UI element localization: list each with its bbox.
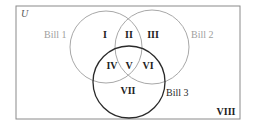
region-label-5: V xyxy=(125,60,133,71)
set-circle-bill-1 xyxy=(70,11,142,83)
set-circle-bill-2 xyxy=(115,10,189,84)
venn-diagram: U Bill 1 Bill 2 Bill 3 I II III IV V VI … xyxy=(0,0,253,127)
region-label-8: VIII xyxy=(217,106,236,117)
universe-label: U xyxy=(21,8,29,19)
set-label-bill-2: Bill 2 xyxy=(191,29,214,40)
set-circle-bill-3 xyxy=(93,46,165,118)
region-label-2: II xyxy=(125,29,133,40)
region-label-3: III xyxy=(147,29,159,40)
region-label-6: VI xyxy=(142,60,153,71)
set-label-bill-3: Bill 3 xyxy=(166,87,189,98)
set-label-bill-1: Bill 1 xyxy=(44,29,67,40)
region-label-1: I xyxy=(103,29,107,40)
region-label-7: VII xyxy=(120,85,135,96)
region-label-4: IV xyxy=(106,60,118,71)
